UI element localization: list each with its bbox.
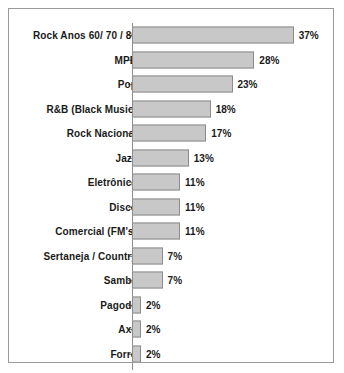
bar-value-label: 18% [216, 103, 236, 114]
bar-value-label: 37% [299, 30, 319, 41]
bar-track: 7% [132, 272, 182, 289]
bar [132, 51, 254, 68]
bar-track: 2% [132, 296, 160, 313]
bar-row: Jazz13% [9, 146, 333, 171]
bar-value-label: 17% [211, 128, 231, 139]
bar-row: Pagode2% [9, 293, 333, 318]
bar-track: 23% [132, 76, 258, 93]
bar [132, 125, 206, 142]
bar-chart-plot-area: Rock Anos 60/ 70 / 8037%MPB28%Pop23%R&B … [9, 9, 333, 362]
bar [132, 321, 141, 338]
bar-row: Axé2% [9, 317, 333, 342]
bar [132, 247, 163, 264]
bar [132, 100, 211, 117]
bar-value-label: 23% [238, 79, 258, 90]
bar-track: 7% [132, 247, 182, 264]
bar-row: Sertaneja / Country7% [9, 244, 333, 269]
bar-value-label: 11% [185, 226, 204, 237]
bar-row: Samba7% [9, 268, 333, 293]
bar-value-label: 13% [194, 152, 214, 163]
bar [132, 296, 141, 313]
bar-row: Rock Nacional17% [9, 121, 333, 146]
bar-row: Eletrônica11% [9, 170, 333, 195]
bar-value-label: 11% [185, 177, 204, 188]
bar-track: 11% [132, 223, 205, 240]
bar [132, 198, 180, 215]
bar-value-label: 7% [168, 250, 182, 261]
bar-track: 11% [132, 198, 205, 215]
bar [132, 223, 180, 240]
bar-track: 18% [132, 100, 236, 117]
bar-row: Forró2% [9, 342, 333, 367]
bar [132, 27, 294, 44]
bar-row: Comercial (FM's)11% [9, 219, 333, 244]
bar-value-label: 28% [259, 54, 279, 65]
bar-category-label: R&B (Black Music) [46, 103, 137, 114]
bar-row: MPB28% [9, 48, 333, 73]
bar-row: R&B (Black Music)18% [9, 97, 333, 122]
bar-value-label: 2% [146, 324, 160, 335]
bar-category-label: Comercial (FM's) [55, 226, 137, 237]
bar-value-label: 11% [185, 201, 204, 212]
bar [132, 345, 141, 362]
bar-track: 28% [132, 51, 279, 68]
bar-row: Disco11% [9, 195, 333, 220]
bar [132, 76, 233, 93]
bar-value-label: 7% [168, 275, 182, 286]
bar-category-label: Rock Anos 60/ 70 / 80 [33, 30, 137, 41]
bar-value-label: 2% [146, 348, 160, 359]
bar-value-label: 2% [146, 299, 160, 310]
bar-category-label: Rock Nacional [67, 128, 137, 139]
bar-track: 11% [132, 174, 205, 191]
bar [132, 174, 180, 191]
bar [132, 272, 163, 289]
bar-track: 17% [132, 125, 231, 142]
bar-track: 2% [132, 321, 160, 338]
bar-row: Rock Anos 60/ 70 / 8037% [9, 23, 333, 48]
bar-category-label: Sertaneja / Country [43, 250, 137, 261]
bar [132, 149, 189, 166]
bar-track: 2% [132, 345, 160, 362]
bar-category-label: Eletrônica [88, 177, 137, 188]
bar-track: 13% [132, 149, 214, 166]
bar-row: Pop23% [9, 72, 333, 97]
chart-frame: Rock Anos 60/ 70 / 8037%MPB28%Pop23%R&B … [8, 8, 334, 363]
bar-track: 37% [132, 27, 319, 44]
